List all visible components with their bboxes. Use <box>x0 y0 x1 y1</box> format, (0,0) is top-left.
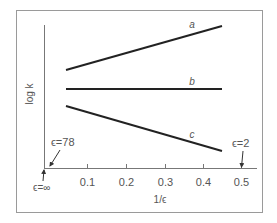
x-tick-label: 0.5 <box>234 176 249 188</box>
series-a-label: a <box>189 19 195 30</box>
series-c-label: c <box>190 129 195 140</box>
figure-frame <box>17 11 263 213</box>
x-axis-label: 1/ϵ <box>154 194 167 205</box>
annotation-epsinf: ϵ=∞ <box>33 182 50 193</box>
annotation-eps78: ϵ=78 <box>51 136 75 148</box>
x-tick-label: 0.1 <box>80 176 95 188</box>
x-tick-label: 0.4 <box>196 176 211 188</box>
chart-figure: 0.1 0.2 0.3 0.4 0.5 1/ϵ log k a b c ϵ=78… <box>0 0 277 223</box>
y-axis-label: log k <box>24 82 35 104</box>
annotation-eps2: ϵ=2 <box>232 137 249 149</box>
x-tick-label: 0.2 <box>119 176 134 188</box>
series-b-label: b <box>189 76 195 87</box>
x-tick-label: 0.3 <box>158 176 173 188</box>
